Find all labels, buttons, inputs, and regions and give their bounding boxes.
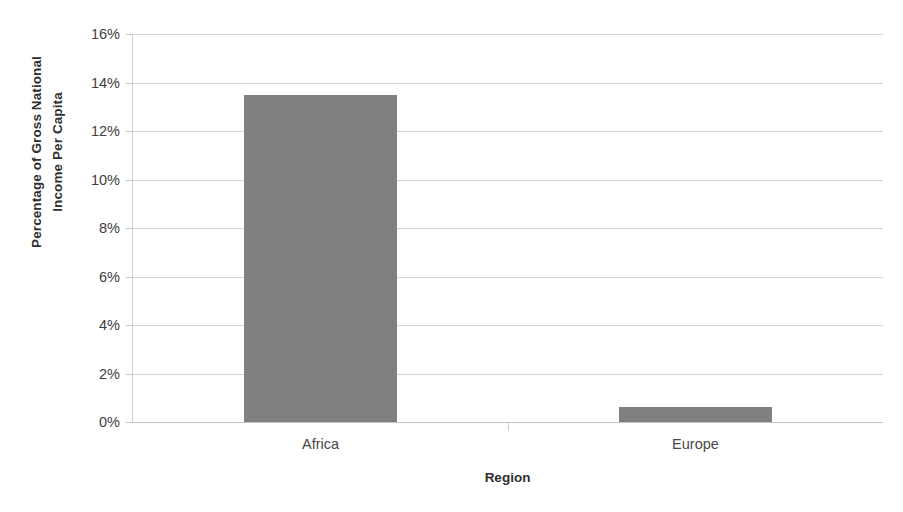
y-axis-tick (126, 83, 133, 84)
bar-chart: Percentage of Gross National Income Per … (0, 0, 903, 512)
y-axis-tick (126, 228, 133, 229)
x-axis-tick (508, 422, 509, 431)
y-axis-tick-label: 2% (60, 366, 120, 382)
plot-area (133, 34, 883, 422)
x-axis-title: Region (0, 470, 903, 485)
x-axis-tick-label-africa: Africa (302, 436, 339, 452)
gridline (133, 34, 883, 35)
bar-europe[interactable] (619, 407, 772, 422)
y-axis-tick (126, 374, 133, 375)
y-axis-tick-label: 16% (60, 26, 120, 42)
x-axis-tick-label-europe: Europe (672, 436, 719, 452)
y-axis-tick (126, 277, 133, 278)
y-axis-tick-label: 6% (60, 269, 120, 285)
y-axis-tick (126, 180, 133, 181)
x-axis-title-label: Region (485, 470, 531, 485)
y-axis-tick (126, 131, 133, 132)
bar-africa[interactable] (244, 95, 397, 422)
y-axis-tick-labels: 16%14%12%10%8%6%4%2%0% (58, 0, 120, 512)
y-axis-tick-label: 0% (60, 414, 120, 430)
y-axis-tick-label: 12% (60, 123, 120, 139)
gridline (133, 83, 883, 84)
y-axis-tick-label: 14% (60, 75, 120, 91)
y-axis-tick (126, 422, 133, 423)
y-axis-tick-label: 4% (60, 317, 120, 333)
y-axis-tick (126, 34, 133, 35)
y-axis-tick (126, 325, 133, 326)
y-axis-tick-label: 10% (60, 172, 120, 188)
y-axis-tick-label: 8% (60, 220, 120, 236)
y-axis-title-line-1: Percentage of Gross National (26, 22, 47, 282)
